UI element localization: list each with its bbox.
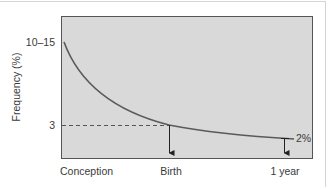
x-label-year: 1 year: [270, 165, 300, 177]
frequency-chart: 10–15 3 Frequency (%) 2% Conception Birt…: [0, 0, 329, 189]
x-label-birth: Birth: [160, 165, 182, 177]
end-value-label: 2%: [296, 132, 311, 144]
y-tick-low: 3: [49, 119, 55, 131]
y-tick-high: 10–15: [26, 36, 55, 48]
x-label-conception: Conception: [60, 165, 113, 177]
y-axis-label: Frequency (%): [10, 53, 22, 122]
